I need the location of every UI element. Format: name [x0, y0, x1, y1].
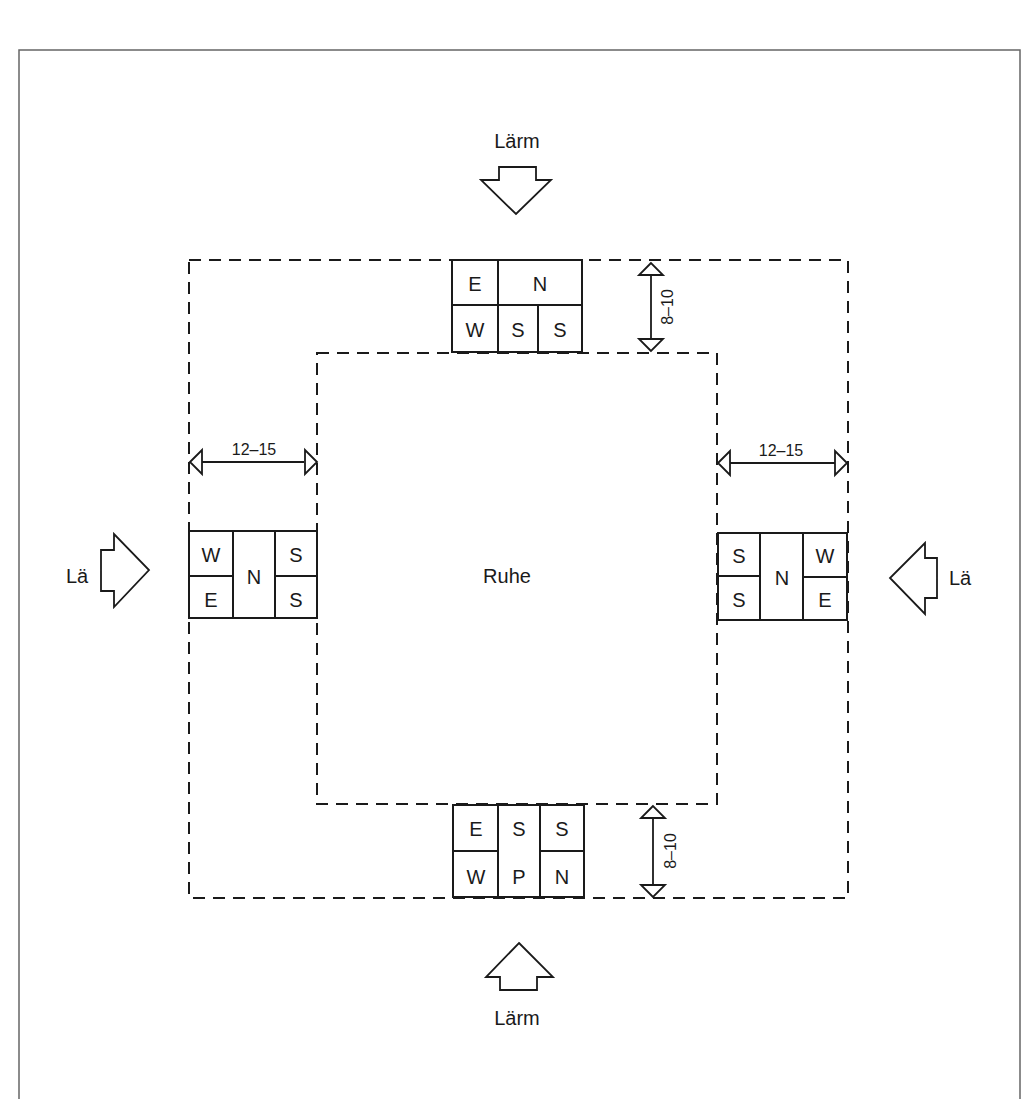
dimension-right-width-label: 12–15 — [759, 442, 804, 459]
room-right-n: N — [775, 567, 789, 589]
noise-arrow-top-icon — [481, 167, 551, 214]
room-top-s2: S — [553, 319, 566, 341]
noise-zoning-diagram: Ruhe Lärm Lärm Lä Lä E N W S S 8–10 E W … — [0, 0, 1024, 1099]
room-left-s1: S — [289, 544, 302, 566]
room-left-s2: S — [289, 589, 302, 611]
noise-arrow-bottom-icon — [486, 943, 553, 990]
noise-arrow-left-icon — [101, 534, 149, 607]
room-top-e: E — [468, 273, 481, 295]
room-top-s1: S — [511, 319, 524, 341]
noise-label-top: Lärm — [494, 130, 540, 152]
center-label-ruhe: Ruhe — [483, 565, 531, 587]
noise-label-bottom: Lärm — [494, 1007, 540, 1029]
room-left-w: W — [202, 544, 221, 566]
dimension-top-depth-label: 8–10 — [659, 289, 676, 325]
noise-label-left: Lä — [66, 565, 89, 587]
room-top-n: N — [533, 273, 547, 295]
room-right-e: E — [818, 589, 831, 611]
room-bottom-p: P — [512, 866, 525, 888]
room-right-s1: S — [732, 545, 745, 567]
room-bottom-w: W — [467, 866, 486, 888]
room-right-s2: S — [732, 589, 745, 611]
room-bottom-n: N — [555, 866, 569, 888]
dimension-bottom-depth-label: 8–10 — [662, 833, 679, 869]
room-top-w: W — [466, 319, 485, 341]
noise-label-right: Lä — [949, 567, 972, 589]
noise-arrow-right-icon — [890, 543, 937, 614]
room-right-w: W — [816, 545, 835, 567]
dimension-left-width-label: 12–15 — [232, 441, 277, 458]
room-left-e: E — [204, 589, 217, 611]
room-bottom-s1: S — [512, 818, 525, 840]
room-left-n: N — [247, 566, 261, 588]
room-bottom-s2: S — [555, 818, 568, 840]
room-bottom-e: E — [469, 818, 482, 840]
